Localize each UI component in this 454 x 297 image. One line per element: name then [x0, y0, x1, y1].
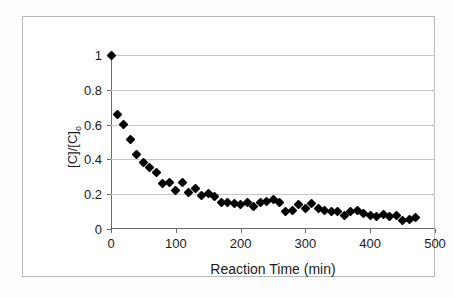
- x-tick-mark: [370, 229, 371, 233]
- y-tick-mark: [107, 194, 111, 195]
- gridline-horizontal: [111, 55, 435, 56]
- y-tick-label: 0: [95, 223, 102, 236]
- y-axis-title: [C]/[C]o: [65, 126, 83, 168]
- x-tick-mark: [305, 229, 306, 233]
- chart-outer-frame: [C]/[C]o 00.20.40.60.81 0100200300400500…: [22, 16, 435, 277]
- x-tick-mark: [111, 229, 112, 233]
- y-tick-label: 0.6: [84, 118, 102, 131]
- x-tick-label: 0: [107, 237, 114, 250]
- gridline-horizontal: [111, 125, 435, 126]
- x-tick-label: 300: [295, 237, 317, 250]
- y-axis-title-main: [C]/[C]: [65, 131, 80, 168]
- x-tick-label: 100: [165, 237, 187, 250]
- x-tick-label: 400: [359, 237, 381, 250]
- x-tick-label: 500: [424, 237, 446, 250]
- chart-figure: [C]/[C]o 00.20.40.60.81 0100200300400500…: [0, 0, 454, 297]
- y-axis-title-subscript: o: [73, 126, 83, 131]
- y-tick-mark: [107, 125, 111, 126]
- x-tick-mark: [241, 229, 242, 233]
- gridline-horizontal: [111, 90, 435, 91]
- x-tick-mark: [435, 229, 436, 233]
- y-tick-label: 1: [95, 49, 102, 62]
- gridline-horizontal: [111, 159, 435, 160]
- x-axis-title: Reaction Time (min): [111, 261, 435, 277]
- y-tick-label: 0.2: [84, 188, 102, 201]
- x-tick-mark: [176, 229, 177, 233]
- y-tick-mark: [107, 90, 111, 91]
- y-tick-label: 0.8: [84, 83, 102, 96]
- x-tick-label: 200: [230, 237, 252, 250]
- y-tick-mark: [107, 159, 111, 160]
- y-tick-label: 0.4: [84, 153, 102, 166]
- plot-area: 00.20.40.60.81 0100200300400500: [111, 55, 435, 229]
